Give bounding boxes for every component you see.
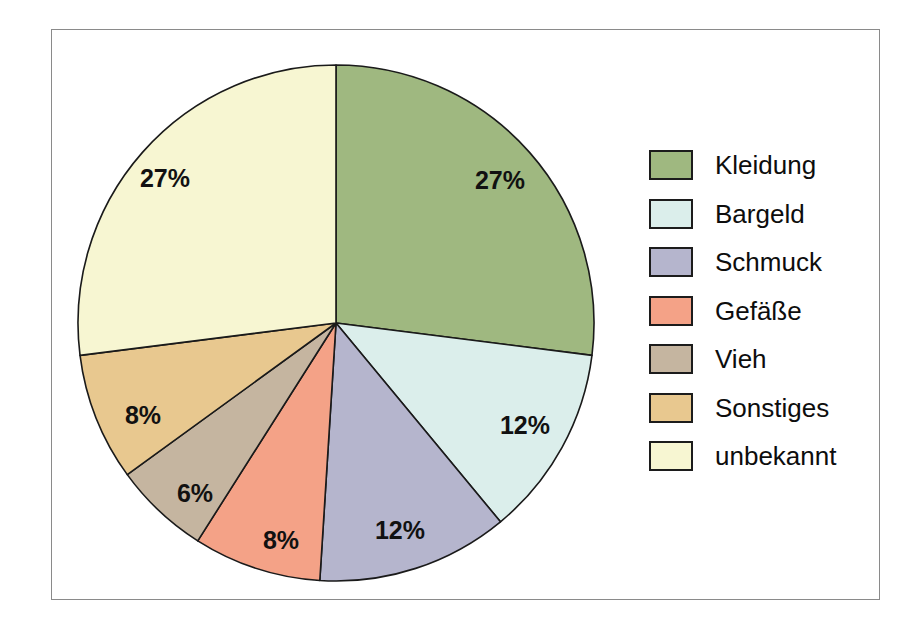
legend-label: Vieh: [715, 346, 767, 372]
figure-frame: 27%12%12%8%6%8%27% KleidungBargeldSchmuc…: [51, 29, 880, 600]
legend-item[interactable]: Schmuck: [649, 238, 881, 287]
legend-item[interactable]: Bargeld: [649, 190, 881, 239]
pie-chart-svg: 27%12%12%8%6%8%27%: [52, 30, 652, 601]
pie-slice-group: [78, 65, 594, 581]
legend-swatch: [649, 441, 693, 471]
legend-label: Schmuck: [715, 249, 822, 275]
legend-label: unbekannt: [715, 443, 836, 469]
pie-slice-label: 12%: [375, 516, 425, 544]
legend-label: Sonstiges: [715, 395, 829, 421]
pie-chart-area: 27%12%12%8%6%8%27%: [52, 30, 652, 601]
legend-item[interactable]: unbekannt: [649, 432, 881, 481]
chart-legend: KleidungBargeldSchmuckGefäßeViehSonstige…: [649, 141, 881, 481]
legend-swatch: [649, 344, 693, 374]
legend-swatch: [649, 150, 693, 180]
pie-slice-label: 27%: [475, 166, 525, 194]
pie-slice-label: 6%: [177, 479, 213, 507]
legend-label: Gefäße: [715, 298, 802, 324]
legend-swatch: [649, 247, 693, 277]
legend-item[interactable]: Sonstiges: [649, 384, 881, 433]
legend-item[interactable]: Kleidung: [649, 141, 881, 190]
pie-slice[interactable]: [78, 65, 336, 355]
pie-slice-label: 8%: [263, 526, 299, 554]
legend-item[interactable]: Vieh: [649, 335, 881, 384]
pie-slice[interactable]: [336, 65, 594, 355]
pie-slice-label: 27%: [140, 164, 190, 192]
legend-swatch: [649, 393, 693, 423]
legend-item[interactable]: Gefäße: [649, 287, 881, 336]
legend-swatch: [649, 199, 693, 229]
pie-slice-label: 8%: [125, 401, 161, 429]
legend-label: Kleidung: [715, 152, 816, 178]
legend-label: Bargeld: [715, 201, 805, 227]
pie-slice-label: 12%: [500, 411, 550, 439]
legend-swatch: [649, 296, 693, 326]
